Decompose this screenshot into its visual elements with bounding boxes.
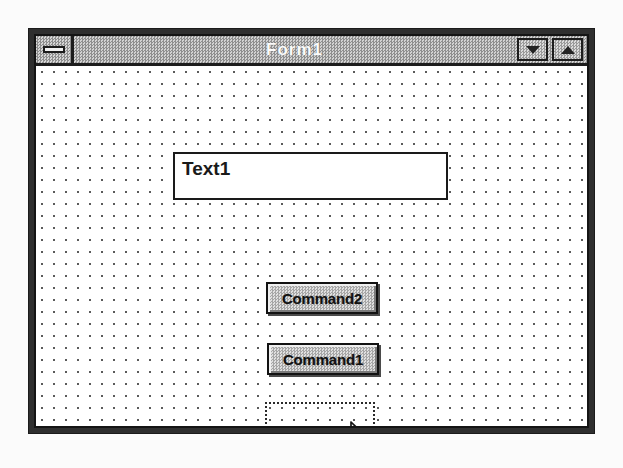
triangle-down-icon bbox=[526, 46, 540, 54]
form-design-surface[interactable]: Text1 Command2 Command1 bbox=[36, 66, 587, 426]
title-bar[interactable]: Form1 bbox=[36, 36, 587, 66]
command-button-command2[interactable]: Command2 bbox=[266, 282, 378, 314]
rubber-band-selection-rectangle[interactable] bbox=[265, 402, 375, 428]
triangle-up-icon bbox=[561, 46, 575, 54]
control-menu-box-icon bbox=[43, 46, 65, 53]
minimize-button[interactable] bbox=[517, 38, 548, 61]
textbox-control-text1[interactable]: Text1 bbox=[173, 152, 448, 200]
page-background: Form1 Text1 Command2 Command1 bbox=[0, 0, 623, 468]
command-button-command1[interactable]: Command1 bbox=[267, 343, 379, 375]
title-text-area: Form1 bbox=[74, 36, 515, 63]
form-designer-window: Form1 Text1 Command2 Command1 bbox=[29, 29, 594, 433]
control-menu-box-button[interactable] bbox=[36, 36, 74, 63]
title-bar-buttons bbox=[515, 36, 587, 63]
window-title: Form1 bbox=[266, 40, 323, 60]
window-inner-frame: Form1 Text1 Command2 Command1 bbox=[34, 34, 589, 428]
maximize-button[interactable] bbox=[552, 38, 583, 61]
